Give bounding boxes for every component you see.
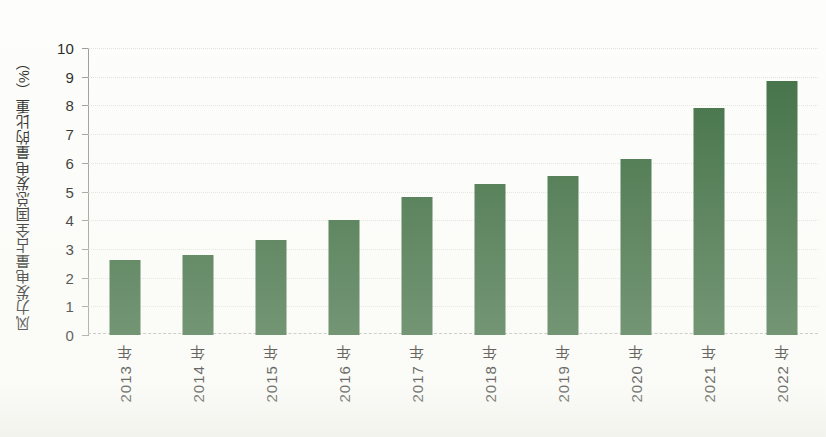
y-axis-tick-label: 4 [65, 212, 74, 229]
y-axis-title: 风力发电量占全国总发电量的比重（%） [12, 48, 34, 336]
x-axis-tick-label: 2014 年 [187, 344, 208, 403]
x-axis-tick-label: 2021 年 [698, 344, 719, 403]
y-axis-tick-label: 2 [65, 269, 74, 286]
bar-group: 2013 年 [88, 48, 161, 335]
bar-group: 2018 年 [453, 48, 526, 335]
bar [109, 260, 140, 335]
bar-chart: 风力发电量占全国总发电量的比重（%） 012345678910 2013 年20… [0, 0, 826, 437]
bar [766, 81, 797, 335]
bar [401, 197, 432, 335]
y-axis-tick-label: 0 [65, 327, 74, 344]
x-axis-tick-label: 2019 年 [552, 344, 573, 403]
x-axis-tick-label: 2017 年 [406, 344, 427, 403]
bar-group: 2015 年 [234, 48, 307, 335]
bar [255, 240, 286, 335]
y-axis-tick-label: 9 [65, 68, 74, 85]
bar [182, 255, 213, 335]
plot-area: 012345678910 2013 年2014 年2015 年2016 年201… [88, 48, 818, 335]
bar-group: 2019 年 [526, 48, 599, 335]
x-axis-tick-label: 2015 年 [260, 344, 281, 403]
x-axis-tick-label: 2018 年 [479, 344, 500, 403]
bar-group: 2021 年 [672, 48, 745, 335]
x-axis-tick-label: 2022 年 [771, 344, 792, 403]
x-axis-tick-label: 2020 年 [625, 344, 646, 403]
bar [547, 176, 578, 335]
bar-group: 2022 年 [745, 48, 818, 335]
y-axis-tick-label: 7 [65, 126, 74, 143]
bar-group: 2016 年 [307, 48, 380, 335]
x-axis-tick-label: 2013 年 [114, 344, 135, 403]
bar [474, 184, 505, 335]
y-axis-tick-label: 10 [57, 40, 74, 57]
y-axis-tick-label: 3 [65, 240, 74, 257]
y-axis-tick-label: 1 [65, 298, 74, 315]
y-axis-tick-label: 5 [65, 183, 74, 200]
bar [328, 220, 359, 335]
y-axis-title-text: 风力发电量占全国总发电量的比重（%） [13, 54, 34, 331]
bar [620, 159, 651, 336]
bar-group: 2020 年 [599, 48, 672, 335]
y-axis-tick-label: 8 [65, 97, 74, 114]
x-axis-tick-label: 2016 年 [333, 344, 354, 403]
bar-series: 2013 年2014 年2015 年2016 年2017 年2018 年2019… [88, 48, 818, 335]
y-axis-tick: 0 [82, 335, 88, 336]
bar-group: 2014 年 [161, 48, 234, 335]
y-axis-tick-label: 6 [65, 154, 74, 171]
bar-group: 2017 年 [380, 48, 453, 335]
bar [693, 108, 724, 335]
